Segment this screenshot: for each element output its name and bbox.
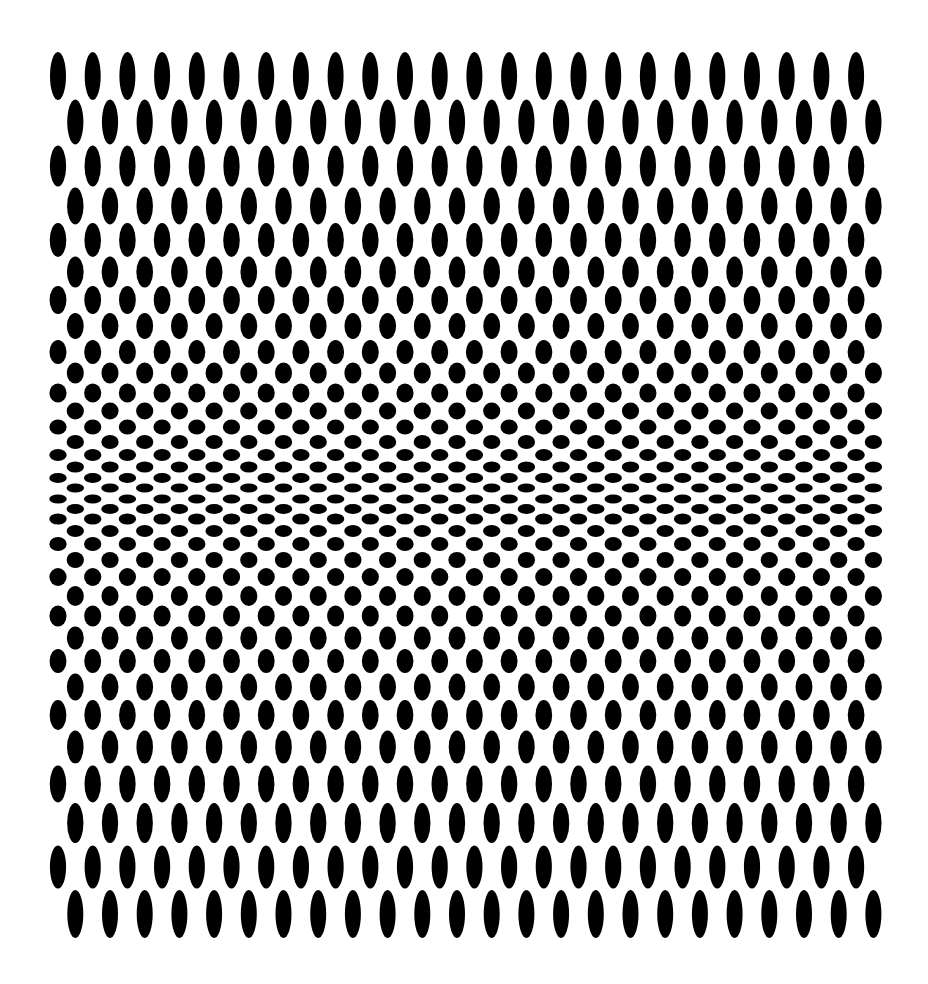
ellipse-dot xyxy=(743,473,760,483)
ellipse-dot xyxy=(362,537,379,551)
ellipse-dot xyxy=(622,484,639,493)
ellipse-dot xyxy=(310,586,327,606)
ellipse-dot xyxy=(205,462,222,473)
ellipse-dot xyxy=(345,188,361,225)
ellipse-dot xyxy=(778,568,795,586)
ellipse-dot xyxy=(779,52,795,100)
ellipse-dot xyxy=(813,568,830,586)
ellipse-dot xyxy=(657,586,674,606)
ellipse-dot xyxy=(536,52,552,100)
ellipse-dot xyxy=(726,627,743,650)
ellipse-dot xyxy=(570,340,587,364)
ellipse-dot xyxy=(101,525,118,537)
ellipse-dot xyxy=(85,846,101,889)
ellipse-dot xyxy=(501,223,518,257)
ellipse-dot xyxy=(49,384,66,403)
ellipse-dot xyxy=(500,514,517,525)
ellipse-dot xyxy=(553,803,569,843)
ellipse-dot xyxy=(397,649,414,673)
ellipse-dot xyxy=(84,766,100,803)
ellipse-dot xyxy=(692,188,708,225)
ellipse-dot xyxy=(136,674,153,701)
ellipse-dot xyxy=(327,473,344,483)
ellipse-dot xyxy=(275,674,292,701)
ellipse-dot xyxy=(830,313,847,339)
ellipse-dot xyxy=(570,384,587,403)
ellipse-dot xyxy=(292,473,309,483)
ellipse-dot xyxy=(795,484,812,493)
ellipse-dot xyxy=(640,286,657,314)
ellipse-dot xyxy=(466,52,482,100)
ellipse-dot xyxy=(813,384,830,403)
ellipse-dot xyxy=(605,146,621,187)
ellipse-dot xyxy=(396,514,413,525)
ellipse-dot xyxy=(796,627,813,650)
ellipse-dot xyxy=(744,340,761,364)
ellipse-dot xyxy=(535,473,552,483)
ellipse-dot xyxy=(67,403,84,420)
ellipse-dot xyxy=(657,803,673,843)
ellipse-dot xyxy=(240,627,257,650)
ellipse-dot xyxy=(119,449,136,461)
ellipse-dot xyxy=(379,403,396,420)
ellipse-dot xyxy=(501,766,517,803)
ellipse-dot xyxy=(154,223,171,257)
ellipse-dot xyxy=(518,552,535,568)
ellipse-dot xyxy=(67,803,83,843)
ellipse-dot xyxy=(535,340,552,364)
ellipse-dot xyxy=(466,846,482,889)
ellipse-dot xyxy=(813,766,829,803)
ellipse-dot xyxy=(258,340,275,364)
ellipse-dot xyxy=(206,313,223,339)
ellipse-dot xyxy=(448,363,465,384)
ellipse-dot xyxy=(761,674,778,701)
ellipse-dot xyxy=(847,514,864,525)
ellipse-dot xyxy=(362,449,379,461)
ellipse-dot xyxy=(571,52,587,100)
ellipse-dot xyxy=(275,731,292,764)
ellipse-dot xyxy=(466,449,483,461)
ellipse-dot xyxy=(587,552,604,568)
ellipse-dot xyxy=(414,188,430,225)
ellipse-dot xyxy=(848,649,865,673)
ellipse-dot xyxy=(657,674,674,701)
ellipse-dot xyxy=(362,766,378,803)
ellipse-dot xyxy=(656,484,673,493)
ellipse-dot xyxy=(362,495,379,504)
ellipse-dot xyxy=(449,674,466,701)
ellipse-dot xyxy=(466,514,483,525)
ellipse-dot xyxy=(605,537,622,551)
ellipse-dot xyxy=(379,435,396,449)
ellipse-dot xyxy=(535,514,552,525)
ellipse-dot xyxy=(639,420,656,435)
ellipse-dot xyxy=(223,649,240,673)
ellipse-dot xyxy=(709,223,726,257)
ellipse-dot xyxy=(587,484,604,493)
ellipse-dot xyxy=(414,803,430,843)
ellipse-dot xyxy=(623,890,639,938)
ellipse-dot xyxy=(379,627,396,650)
ellipse-dot xyxy=(327,766,343,803)
ellipse-dot xyxy=(258,52,274,100)
ellipse-dot xyxy=(570,286,587,314)
ellipse-dot xyxy=(448,586,465,606)
ellipse-dot xyxy=(414,257,431,288)
ellipse-dot xyxy=(535,449,552,461)
ellipse-dot xyxy=(535,606,552,627)
ellipse-dot xyxy=(119,495,136,504)
ellipse-dot xyxy=(466,340,483,364)
ellipse-dot xyxy=(344,313,361,339)
ellipse-dot xyxy=(865,525,882,537)
ellipse-dot xyxy=(327,606,344,627)
ellipse-dot xyxy=(605,568,622,586)
ellipse-dot xyxy=(293,223,310,257)
ellipse-dot xyxy=(483,257,500,288)
ellipse-dot xyxy=(431,766,447,803)
ellipse-dot xyxy=(379,674,396,701)
ellipse-dot xyxy=(657,731,674,764)
ellipse-dot xyxy=(743,495,760,504)
ellipse-dot xyxy=(500,495,517,504)
ellipse-dot xyxy=(691,462,708,473)
ellipse-dot xyxy=(136,525,153,537)
ellipse-dot xyxy=(761,552,778,568)
